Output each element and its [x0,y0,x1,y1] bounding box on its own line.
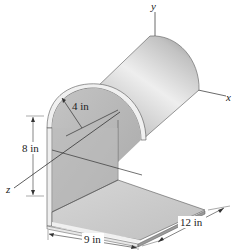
x-axis: x [198,90,231,103]
height-label: 8 in [22,142,39,154]
depth-label: 12 in [180,216,203,228]
y-axis-label: y [150,0,156,12]
width-label: 9 in [84,233,101,245]
radius-label: 4 in [72,100,89,112]
y-axis: y [150,0,156,36]
x-axis-label: x [225,91,231,103]
height-dimension: 8 in [20,116,46,196]
z-axis-label: z [5,183,11,195]
diagram-canvas: y x z 4 [0,0,238,250]
